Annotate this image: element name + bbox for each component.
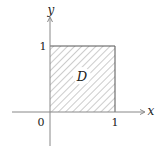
coordinate-diagram: D x y 0 1 1 xyxy=(0,0,164,154)
origin-label: 0 xyxy=(38,116,45,129)
y-axis-label: y xyxy=(47,3,55,17)
x-tick-label: 1 xyxy=(112,116,119,129)
y-tick-label: 1 xyxy=(40,40,47,53)
region-label: D xyxy=(76,69,88,84)
x-axis-label: x xyxy=(148,104,155,118)
